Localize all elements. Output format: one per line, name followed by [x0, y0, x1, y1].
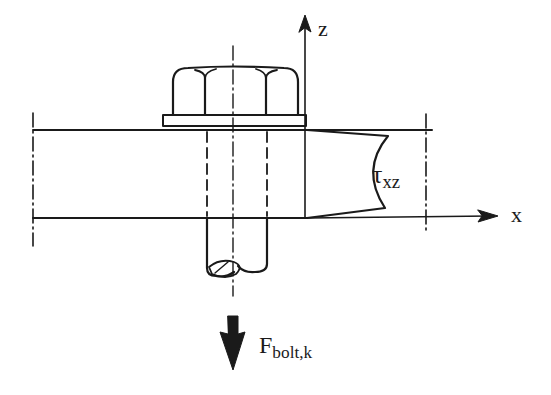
z-axis-label: z	[318, 18, 328, 40]
shear-stress-subscript: xz	[382, 171, 400, 192]
washer	[163, 115, 306, 126]
force-label: Fbolt,k	[259, 333, 312, 357]
bolt-shank	[207, 218, 267, 277]
bolt-hidden-edges	[207, 132, 267, 216]
x-axis-label: x	[511, 204, 522, 226]
hex-nut	[173, 67, 298, 116]
shear-stress-label: τxz	[372, 162, 400, 188]
force-subscript: bolt,k	[272, 343, 312, 362]
shear-stress-symbol: τ	[372, 160, 382, 189]
force-arrow-icon	[220, 316, 245, 370]
x-axis	[307, 210, 498, 222]
force-symbol: F	[259, 332, 272, 358]
